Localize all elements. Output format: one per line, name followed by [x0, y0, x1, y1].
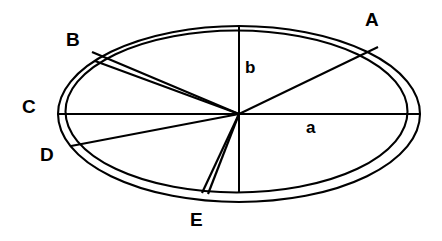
semi-minor-axis-label: b — [245, 59, 255, 76]
sector-label-E: E — [190, 210, 203, 229]
wedge-line-B-upper — [92, 52, 239, 114]
sector-label-A: A — [365, 10, 379, 29]
ellipse-sector-diagram: A B C D E a b — [0, 0, 442, 241]
wedge-line-B-lower — [95, 61, 239, 114]
sector-label-D: D — [40, 145, 54, 164]
semi-major-axis-label: a — [306, 119, 315, 136]
sector-label-B: B — [66, 30, 80, 49]
radius-line-A — [239, 47, 378, 114]
inner-ellipse — [66, 31, 408, 193]
wedge-line-E-right — [208, 114, 239, 194]
sector-label-C: C — [22, 97, 36, 116]
radius-line-D — [71, 114, 239, 146]
